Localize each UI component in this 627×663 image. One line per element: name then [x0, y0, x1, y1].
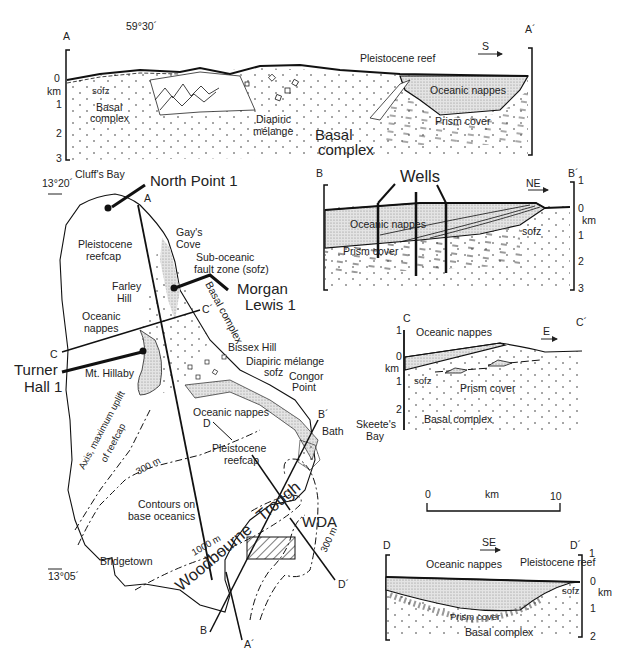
d-oceanic-nappes-label: Oceanic nappes: [426, 558, 502, 570]
direction-ne: NE: [526, 177, 541, 189]
cliffs-bay-label: Cluff's Bay: [75, 168, 125, 180]
gays-cove-label-1: Gay's: [176, 226, 203, 238]
direction-s: S: [482, 40, 489, 52]
pleistocene-reef-label: Pleistocene reef: [360, 52, 435, 64]
skeetes-bay-label-2: Bay: [366, 430, 385, 442]
north-point-label: North Point 1: [150, 172, 238, 189]
section-a-start-label: A: [63, 30, 70, 42]
basal-label-2: complex: [90, 112, 130, 124]
map-label-b: B: [200, 624, 207, 636]
section-a-end-label: A´: [525, 23, 536, 35]
depth-tick: 1: [396, 324, 402, 336]
turner-label-2: Hall 1: [24, 378, 62, 395]
c-basal-complex-label: Basal complex: [424, 413, 493, 425]
d-sofz-label: sofz: [562, 585, 580, 596]
congor-point-label-2: Point: [292, 381, 316, 393]
prism-cover-label: Prism cover: [435, 115, 491, 127]
sofz-map-label-1: Sub-oceanic: [196, 251, 254, 263]
farley-hill-label-1: Farley: [112, 280, 142, 292]
reefcap-s-label-1: Pleistocene: [212, 442, 266, 454]
c-sofz-label: sofz: [414, 375, 432, 386]
depth-tick: 2: [590, 630, 596, 642]
depth-tick: 1: [578, 229, 584, 241]
depth-unit: km: [582, 214, 596, 226]
diapiric-map-label: Diapiric mélange: [246, 355, 324, 367]
depth-tick: 1: [578, 174, 584, 186]
depth-tick: 1: [396, 375, 402, 387]
depth-tick: 2: [578, 255, 584, 267]
mt-hillaby-label: Mt. Hillaby: [85, 367, 135, 379]
morgan-lewis-well: [171, 285, 178, 292]
map-label-d-end: D´: [338, 578, 349, 590]
map-label-b-end: B´: [318, 408, 329, 420]
north-point-well: [105, 205, 112, 212]
map-label-c-end: C´: [202, 303, 213, 315]
depth-tick: 3: [578, 282, 584, 294]
map-label-a: A: [144, 192, 151, 204]
geology-figure: A 59°30´ A´ 0 km 1 2 3: [0, 0, 627, 663]
section-d-start-label: D: [383, 539, 391, 551]
morgan-label-2: Lewis 1: [245, 296, 296, 313]
contours-label-1: Contours on: [138, 498, 195, 510]
scale-end: 10: [550, 490, 562, 502]
d-prism-cover-label: Prism cover: [450, 611, 500, 622]
reefcap-n-label-1: Pleistocene: [78, 238, 132, 250]
direction-e: E: [543, 325, 550, 337]
section-b-start-label: B: [316, 167, 323, 179]
diapiric-label-1: Diapiric: [256, 113, 291, 125]
reefcap-n-label-2: reefcap: [86, 250, 121, 262]
oceanic-map-label-2: nappes: [84, 322, 118, 334]
oceanic-map-label-1: Oceanic: [82, 310, 121, 322]
deformed-zone: [150, 72, 255, 115]
oceanic-nappes-label: Oceanic nappes: [430, 84, 506, 96]
section-c-end-label: C´: [576, 316, 587, 328]
scale-unit: km: [485, 488, 499, 500]
turner-label-1: Turner: [14, 361, 58, 378]
gays-cove-label-2: Cove: [176, 238, 201, 250]
depth-unit: km: [47, 85, 61, 97]
sofz-map-label-2: fault zone (sofz): [194, 263, 269, 275]
depth-tick: 0: [590, 575, 596, 587]
reefcap-s-label-2: reefcap: [224, 454, 259, 466]
b-prism-cover-label: Prism cover: [343, 245, 399, 257]
section-d-end-label: D´: [570, 539, 581, 551]
depth-tick: 0: [396, 350, 402, 362]
d-pleistocene-reef-label: Pleistocene reef: [520, 556, 595, 568]
bath-label: Bath: [322, 425, 344, 437]
c-oceanic-nappes-label: Oceanic nappes: [416, 326, 492, 338]
section-b-axis-right: [570, 182, 574, 290]
contours-label-2: base oceanics: [128, 510, 195, 522]
d-basal-complex-label: Basal complex: [465, 626, 534, 638]
cross-section-c: C C´ 1 0 km 1 2 Oceanic nappes sofz Pris…: [385, 312, 587, 432]
depth-unit: km: [598, 586, 612, 598]
skeetes-bay-label-1: Skeete's: [356, 418, 396, 430]
map-label-d: D: [203, 417, 211, 429]
basal-main-label-2: complex: [318, 141, 374, 158]
depth-tick: 0: [578, 202, 584, 214]
depth-tick: 0: [54, 72, 60, 84]
depth-axis-right: [528, 48, 532, 155]
section-c-start-label: C: [403, 312, 411, 324]
latitude-bottom: 13°05´: [48, 570, 79, 582]
map-label-a-end: A´: [244, 638, 255, 650]
longitude-label: 59°30´: [126, 20, 157, 32]
sofz-map-short-label: sofz: [264, 366, 283, 378]
bridgetown-label: Bridgetown: [100, 555, 153, 567]
map-label-c: C: [50, 348, 58, 360]
turner-hall-well: [140, 348, 147, 355]
depth-tick: 2: [396, 403, 402, 415]
b-sofz-label: sofz: [522, 225, 541, 237]
cross-section-d: D D´ 1 0 km 1 2 Oceanic nappes Pleistoce…: [383, 536, 612, 642]
depth-unit: km: [385, 362, 399, 374]
depth-tick: 1: [590, 602, 596, 614]
sofz-label: sofz: [92, 85, 110, 96]
wells-label: Wells: [400, 167, 440, 185]
depth-tick: 1: [56, 98, 62, 110]
diapiric-label-2: mélange: [253, 125, 293, 137]
depth-tick: 3: [56, 152, 62, 164]
depth-tick: 2: [56, 127, 62, 139]
scale-bar: 0 km 10: [425, 488, 562, 511]
cross-section-a: A 59°30´ A´ 0 km 1 2 3: [47, 20, 536, 164]
wda-hatched-box: [247, 537, 295, 559]
b-oceanic-nappes-label: Oceanic nappes: [350, 218, 426, 230]
